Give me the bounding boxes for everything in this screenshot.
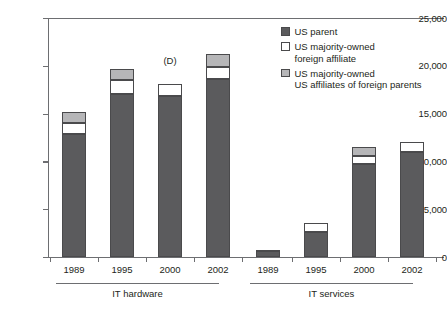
y-tick-mark [43,18,48,19]
legend-label-us-affiliates: US majority-owned US affiliates of forei… [295,68,422,91]
x-tick-label-services-1995: 1995 [293,265,339,275]
chart-legend: US parent US majority-owned foreign affi… [281,26,447,94]
y-tick-mark [43,114,48,115]
x-tick-mark [98,257,99,262]
bar-segment-foreign-affiliate [110,80,134,94]
x-tick-mark [146,257,147,262]
bar-segment-foreign-affiliate [304,223,328,232]
group-rule-it-hardware [56,283,219,284]
legend-item-us-affiliates: US majority-owned US affiliates of forei… [281,68,447,91]
legend-label-us-parent: US parent [295,26,338,38]
legend-item-us-parent: US parent [281,26,447,38]
bar-segment-us-parent [206,79,230,257]
suppressed-data-annotation: (D) [150,56,190,66]
group-label-it-hardware: IT hardware [56,288,219,299]
legend-item-foreign-affiliate: US majority-owned foreign affiliate [281,41,447,64]
x-tick-mark [50,257,51,262]
x-tick-mark [340,257,341,262]
bar-segment-foreign-affiliate [62,123,86,134]
bar-segment-us-affiliates [62,112,86,123]
group-rule-it-services [250,283,413,284]
bar-segment-us-parent [256,251,280,257]
bar-segment-foreign-affiliate [206,67,230,79]
y-tick-mark [43,209,48,210]
x-tick-label-services-2000: 2000 [341,265,387,275]
y-tick-mark [43,257,48,258]
x-tick-label-hardware-2000: 2000 [147,265,193,275]
x-tick-label-services-2002: 2002 [389,265,435,275]
x-tick-label-hardware-1989: 1989 [51,265,97,275]
legend-label-foreign-affiliate: US majority-owned foreign affiliate [295,41,375,64]
x-tick-mark [194,257,195,262]
bar-segment-us-parent [352,164,376,257]
legend-swatch-icon-us-parent [281,27,290,36]
chart-container: 25,000 20,000 15,000 10,000 5,000 0 (D) [0,0,447,310]
x-tick-mark [242,257,243,262]
bar-segment-foreign-affiliate [158,84,182,96]
bar-segment-us-affiliates [110,69,134,81]
x-tick-label-services-1989: 1989 [245,265,291,275]
y-tick-label-15000: 15,000 [405,109,447,119]
bar-segment-us-parent [158,96,182,258]
legend-swatch-icon-us-affiliates [281,69,290,78]
legend-swatch-icon-foreign-affiliate [281,42,290,51]
bar-segment-us-parent [400,152,424,257]
x-tick-label-hardware-2002: 2002 [195,265,241,275]
group-label-it-services: IT services [250,288,413,299]
y-tick-mark [43,161,48,162]
bar-segment-us-parent [62,134,86,257]
y-tick-label-25000: 25,000 [405,14,447,24]
bar-segment-foreign-affiliate [352,156,376,164]
bar-segment-us-affiliates [352,147,376,156]
x-tick-mark [436,257,437,262]
x-tick-mark [388,257,389,262]
bar-segment-us-affiliates [206,54,230,66]
bar-segment-us-parent [304,232,328,257]
x-axis-line [44,257,444,258]
bar-segment-us-parent [110,94,134,257]
x-tick-mark [292,257,293,262]
x-tick-label-hardware-1995: 1995 [99,265,145,275]
y-tick-mark [43,66,48,67]
bar-segment-foreign-affiliate [400,142,424,152]
